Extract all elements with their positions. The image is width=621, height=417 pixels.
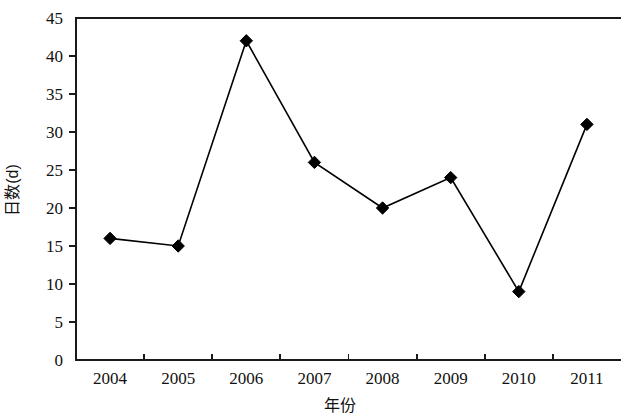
y-tick-label: 0 — [55, 351, 64, 370]
y-tick-label: 20 — [46, 199, 63, 218]
x-tick-label: 2011 — [570, 369, 603, 388]
y-tick-label: 25 — [46, 161, 63, 180]
x-axis-title: 年份 — [324, 397, 356, 414]
x-tick-label: 2010 — [502, 369, 536, 388]
y-tick-label: 10 — [46, 275, 63, 294]
x-tick-label: 2008 — [366, 369, 400, 388]
x-tick-label: 2007 — [297, 369, 332, 388]
y-axis-title: 日数(d) — [4, 164, 21, 216]
chart-canvas: 051015202530354045 200420052006200720082… — [0, 0, 621, 417]
x-tick-label: 2004 — [93, 369, 128, 388]
chart-background — [0, 0, 621, 417]
y-tick-label: 15 — [46, 237, 63, 256]
y-tick-label: 40 — [46, 47, 63, 66]
x-tick-label: 2009 — [434, 369, 468, 388]
y-tick-label: 35 — [46, 85, 63, 104]
y-tick-label: 5 — [55, 313, 64, 332]
y-tick-label: 45 — [46, 9, 63, 28]
x-tick-label: 2006 — [229, 369, 263, 388]
x-tick-label: 2005 — [161, 369, 195, 388]
line-chart-figure: 051015202530354045 200420052006200720082… — [0, 0, 621, 417]
y-tick-label: 30 — [46, 123, 63, 142]
